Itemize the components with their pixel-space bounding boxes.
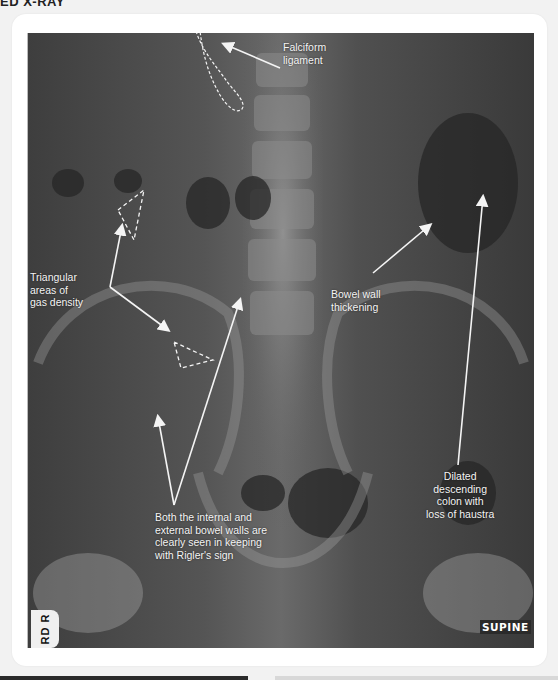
label-falciform-ligament: Falciform ligament (283, 41, 326, 66)
label-triangular-gas: Triangular areas of gas density (30, 271, 83, 309)
bottom-edge (0, 676, 558, 680)
label-riglers-sign: Both the internal and external bowel wal… (155, 511, 267, 561)
side-marker: RD R (31, 610, 59, 648)
section-heading: ED X-RAY (0, 0, 65, 9)
xray-image: Falciform ligament Triangular areas of g… (27, 33, 534, 648)
bottom-edge-dark (0, 676, 248, 680)
view-marker-supine: SUPINE (480, 620, 531, 634)
label-bowel-wall-thickening: Bowel wall thickening (331, 288, 381, 313)
label-dilated-colon: Dilated descending colon with loss of ha… (426, 470, 494, 520)
bottom-edge-light (275, 676, 558, 680)
annotation-overlay (28, 33, 534, 648)
